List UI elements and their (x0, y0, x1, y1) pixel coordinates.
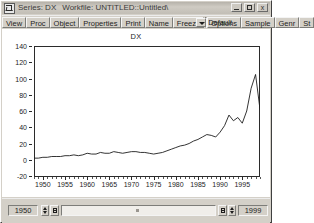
x-tick-mark-minor (211, 177, 212, 179)
x-tick-mark-minor (38, 177, 39, 179)
x-tick-mark-minor (96, 177, 97, 179)
x-tick-mark-major (87, 177, 88, 180)
x-tick-mark-minor (34, 177, 35, 179)
x-tick-mark-minor (74, 177, 75, 179)
toolbar-button-sample[interactable]: Sample (241, 17, 272, 28)
y-tick-label: 20 (19, 141, 27, 148)
x-tick-mark-major (65, 177, 66, 180)
x-tick-mark-major (109, 177, 110, 180)
y-tick-label: 80 (19, 92, 27, 99)
x-tick-mark-minor (225, 177, 226, 179)
chart-client-area[interactable]: DX 140120100806040200-20 195019551960196… (2, 29, 270, 197)
y-tick-mark (29, 46, 32, 47)
x-tick-mark-minor (189, 177, 190, 179)
x-tick-mark-minor (238, 177, 239, 179)
x-tick-mark-minor (260, 177, 261, 179)
series-line-chart (34, 46, 260, 176)
x-tick-label: 1995 (234, 181, 250, 188)
y-tick-mark (29, 176, 32, 177)
y-tick-label: -20 (17, 173, 27, 180)
x-tick-mark-minor (83, 177, 84, 179)
minimize-button[interactable] (231, 3, 242, 12)
chart-title: DX (2, 32, 270, 41)
x-tick-mark-minor (118, 177, 119, 179)
x-axis-line (34, 176, 260, 177)
x-tick-mark-minor (47, 177, 48, 179)
toolbar-button-name[interactable]: Name (145, 17, 173, 28)
y-tick-mark (29, 160, 32, 161)
toolbar-button-properties[interactable]: Properties (79, 17, 121, 28)
x-tick-mark-major (198, 177, 199, 180)
x-tick-mark-minor (100, 177, 101, 179)
x-tick-label: 1985 (190, 181, 206, 188)
x-tick-mark-minor (114, 177, 115, 179)
toolbar-button-proc[interactable]: Proc (26, 17, 49, 28)
x-tick-mark-minor (105, 177, 106, 179)
x-tick-mark-minor (163, 177, 164, 179)
sample-start-spinner[interactable] (41, 205, 49, 216)
x-tick-mark-major (242, 177, 243, 180)
y-tick-mark (29, 111, 32, 112)
x-tick-mark-minor (167, 177, 168, 179)
toolbar-button-object[interactable]: Object (50, 17, 80, 28)
y-tick-label: 60 (19, 108, 27, 115)
x-tick-mark-minor (202, 177, 203, 179)
toolbar-button-print[interactable]: Print (121, 17, 144, 28)
y-tick-label: 40 (19, 124, 27, 131)
y-tick-label: 140 (15, 43, 27, 50)
x-tick-mark-minor (145, 177, 146, 179)
x-tick-mark-minor (251, 177, 252, 179)
x-tick-mark-minor (256, 177, 257, 179)
y-tick-mark (29, 62, 32, 63)
window-title: Series: DXWorkfile: UNTITLED::Untitled\ (18, 3, 168, 13)
y-tick-label: 0 (23, 157, 27, 164)
x-tick-mark-minor (123, 177, 124, 179)
sample-start-stepper[interactable] (50, 205, 59, 216)
window-controls: x (231, 3, 268, 12)
sample-end-stepper[interactable] (218, 205, 227, 216)
window-title-object: Series: DX (18, 3, 56, 12)
maximize-button[interactable] (244, 3, 255, 12)
sample-end-spinner[interactable] (228, 205, 236, 216)
x-tick-label: 1960 (79, 181, 95, 188)
close-icon: x (258, 4, 267, 11)
series-graph-window: Series: DXWorkfile: UNTITLED::Untitled\ … (0, 0, 272, 223)
title-bar[interactable]: Series: DXWorkfile: UNTITLED::Untitled\ … (2, 2, 270, 14)
toolbar-button-view[interactable]: View (2, 17, 26, 28)
close-button[interactable]: x (257, 3, 268, 12)
x-tick-mark-minor (180, 177, 181, 179)
toolbar: View Proc Object Properties Print Name F… (2, 15, 270, 29)
x-tick-mark-minor (185, 177, 186, 179)
view-preset-dropdown[interactable]: Default (205, 17, 207, 28)
sample-range-thumb[interactable] (136, 209, 139, 212)
x-tick-mark-minor (149, 177, 150, 179)
x-tick-mark-minor (127, 177, 128, 179)
x-tick-mark-major (220, 177, 221, 180)
window-title-workfile: Workfile: UNTITLED::Untitled\ (62, 3, 168, 12)
x-tick-mark-minor (194, 177, 195, 179)
y-tick-label: 100 (15, 76, 27, 83)
x-tick-mark-minor (171, 177, 172, 179)
chevron-down-icon[interactable] (196, 18, 206, 27)
y-tick-mark (29, 79, 32, 80)
x-tick-mark-major (43, 177, 44, 180)
y-tick-mark (29, 95, 32, 96)
y-tick-mark (29, 144, 32, 145)
sample-start-field[interactable]: 1950 (8, 205, 38, 216)
y-axis: 140120100806040200-20 (2, 46, 32, 177)
x-tick-label: 1950 (35, 181, 51, 188)
x-tick-label: 1970 (124, 181, 140, 188)
x-tick-mark-minor (61, 177, 62, 179)
sample-scroll-bar: 1950 1999 (2, 198, 270, 223)
x-tick-mark-major (154, 177, 155, 180)
sample-end-field[interactable]: 1999 (238, 205, 268, 216)
x-tick-mark-minor (78, 177, 79, 179)
y-tick-label: 120 (15, 59, 27, 66)
series-icon[interactable] (4, 3, 15, 14)
x-tick-mark-major (131, 177, 132, 180)
x-tick-mark-minor (52, 177, 53, 179)
x-tick-label: 1955 (57, 181, 73, 188)
x-tick-label: 1965 (102, 181, 118, 188)
series-dx-line (34, 74, 260, 158)
x-tick-mark-minor (140, 177, 141, 179)
